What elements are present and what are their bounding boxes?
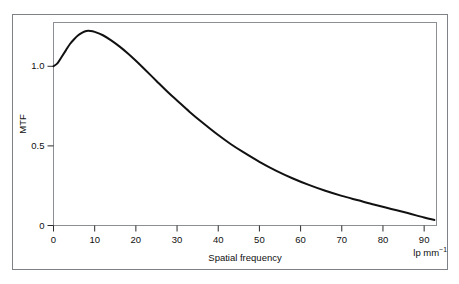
x-tick-label: 30 bbox=[172, 235, 183, 245]
x-tick-label: 60 bbox=[295, 235, 306, 245]
x-tick-label: 70 bbox=[336, 235, 347, 245]
x-tick-label: 90 bbox=[419, 235, 430, 245]
x-tick-label: 50 bbox=[254, 235, 265, 245]
x-axis-unit-exponent: −1 bbox=[439, 245, 447, 252]
x-tick-label: 20 bbox=[131, 235, 142, 245]
x-axis-label: Spatial frequency bbox=[208, 252, 281, 263]
mtf-curve-line bbox=[54, 31, 435, 220]
y-axis-label: MTF bbox=[17, 114, 28, 134]
x-axis-unit-text: lp mm bbox=[413, 247, 439, 258]
chart-canvas bbox=[0, 0, 459, 284]
x-tick-label: 10 bbox=[89, 235, 100, 245]
x-axis-unit-label: lp mm−1 bbox=[413, 247, 447, 258]
y-tick-label: 1.0 bbox=[31, 61, 44, 71]
y-tick-label: 0.5 bbox=[31, 141, 44, 151]
x-tick-label: 0 bbox=[51, 235, 56, 245]
x-axis-ticks bbox=[54, 226, 425, 232]
x-tick-label: 40 bbox=[213, 235, 224, 245]
y-axis-ticks bbox=[48, 66, 54, 225]
x-tick-label: 80 bbox=[378, 235, 389, 245]
y-tick-label: 0 bbox=[39, 221, 44, 231]
mtf-figure: 0102030405060708090 00.51.0 Spatial freq… bbox=[0, 0, 459, 284]
